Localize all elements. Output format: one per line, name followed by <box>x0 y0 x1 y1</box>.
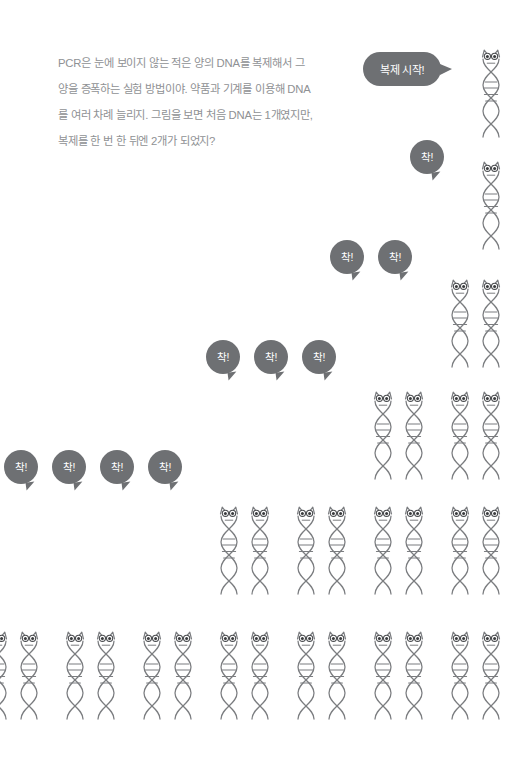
pcr-illustration-page: PCR은 눈에 보이지 않는 적은 양의 DNA를 복제해서 그 양을 증폭하는… <box>0 0 508 781</box>
dna-strand <box>447 505 473 600</box>
dna-strand <box>478 505 504 600</box>
narration-text: PCR은 눈에 보이지 않는 적은 양의 DNA를 복제해서 그 양을 증폭하는… <box>58 50 358 154</box>
speech-bubble-chak: 착! <box>52 450 86 484</box>
speech-bubble-chak: 착! <box>4 450 38 484</box>
dna-strand <box>478 390 504 485</box>
dna-strand <box>401 390 427 485</box>
speech-bubble-chak: 착! <box>254 340 288 374</box>
dna-strand <box>247 505 273 600</box>
dna-strand <box>370 505 396 600</box>
speech-bubble-chak: 착! <box>302 340 336 374</box>
speech-bubble-start: 복제 시작! <box>363 52 441 86</box>
dna-strand <box>62 630 88 725</box>
dna-strand <box>0 630 11 725</box>
dna-strand <box>170 630 196 725</box>
dna-strand <box>401 505 427 600</box>
dna-strand <box>293 630 319 725</box>
speech-bubble-chak: 착! <box>100 450 134 484</box>
dna-strand <box>478 48 504 143</box>
dna-strand <box>216 630 242 725</box>
dna-strand <box>478 630 504 725</box>
dna-strand <box>478 160 504 255</box>
dna-strand <box>447 630 473 725</box>
dna-strand <box>139 630 165 725</box>
dna-strand <box>216 505 242 600</box>
dna-strand <box>93 630 119 725</box>
dna-strand <box>324 630 350 725</box>
dna-strand <box>324 505 350 600</box>
speech-bubble-chak: 착! <box>378 240 412 274</box>
dna-strand <box>447 278 473 373</box>
speech-bubble-chak: 착! <box>410 140 444 174</box>
dna-strand <box>16 630 42 725</box>
speech-bubble-chak: 착! <box>330 240 364 274</box>
dna-strand <box>247 630 273 725</box>
speech-bubble-chak: 착! <box>148 450 182 484</box>
dna-strand <box>478 278 504 373</box>
dna-strand <box>401 630 427 725</box>
dna-strand <box>447 390 473 485</box>
dna-strand <box>370 630 396 725</box>
speech-bubble-chak: 착! <box>206 340 240 374</box>
dna-strand <box>370 390 396 485</box>
dna-strand <box>293 505 319 600</box>
